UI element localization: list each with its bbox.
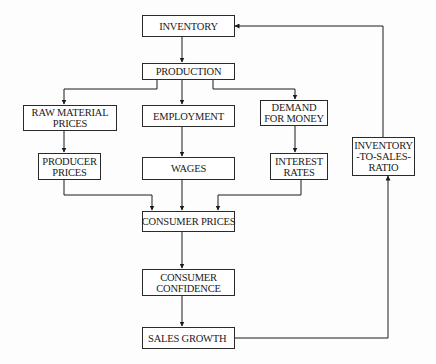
connector-lines [0, 0, 436, 364]
node-interest-rates: INTEREST RATES [270, 153, 328, 180]
node-raw-material-prices: RAW MATERIAL PRICES [23, 105, 117, 131]
node-label: -TO-SALES- [356, 151, 410, 162]
node-label: PRICES [53, 118, 87, 129]
node-label: RAW MATERIAL [32, 107, 109, 118]
node-inventory: INVENTORY [142, 15, 235, 37]
node-label: WAGES [171, 163, 206, 174]
node-consumer-confidence: CONSUMER CONFIDENCE [142, 269, 235, 296]
node-label: INVENTORY [159, 21, 218, 32]
flowchart-canvas: INVENTORY PRODUCTION RAW MATERIAL PRICES… [0, 0, 436, 364]
node-label: DEMAND [272, 102, 317, 113]
node-label: FOR MONEY [264, 113, 324, 124]
node-label: PRICES [52, 167, 86, 178]
node-inventory-to-sales-ratio: INVENTORY -TO-SALES- RATIO [352, 137, 415, 176]
node-label: RATES [283, 167, 314, 178]
node-label: INVENTORY [354, 140, 413, 151]
node-label: CONSUMER [160, 272, 217, 283]
node-label: PRODUCER [42, 156, 96, 167]
node-label: RATIO [369, 162, 399, 173]
node-producer-prices: PRODUCER PRICES [38, 153, 101, 180]
node-employment: EMPLOYMENT [142, 105, 235, 127]
node-consumer-prices: CONSUMER PRICES [142, 211, 235, 232]
node-wages: WAGES [142, 157, 235, 180]
node-label: PRODUCTION [156, 66, 222, 77]
node-label: CONSUMER PRICES [142, 216, 236, 227]
node-production: PRODUCTION [142, 63, 235, 80]
node-label: INTEREST [275, 156, 323, 167]
node-sales-growth: SALES GROWTH [142, 327, 235, 349]
node-label: EMPLOYMENT [153, 111, 224, 122]
node-label: CONFIDENCE [156, 283, 221, 294]
node-demand-for-money: DEMAND FOR MONEY [260, 100, 328, 126]
node-label: SALES GROWTH [148, 333, 226, 344]
